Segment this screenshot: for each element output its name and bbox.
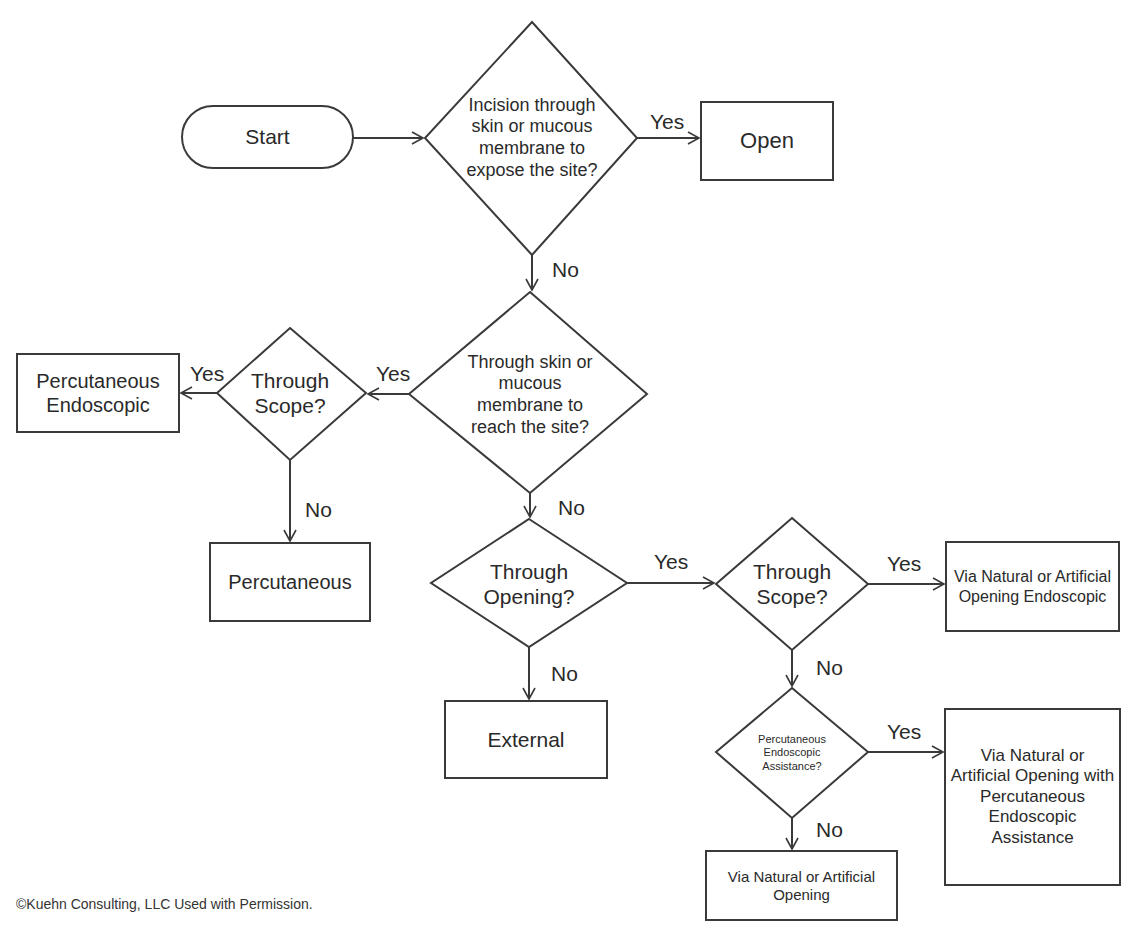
reach-no-label: No — [558, 496, 585, 520]
start-label: Start — [182, 106, 353, 168]
scope-right-no-label: No — [816, 656, 843, 680]
assist-yes-label: Yes — [887, 720, 921, 744]
reach-yes-label: Yes — [376, 362, 410, 386]
scope-left-no-label: No — [305, 498, 332, 522]
percutaneous-label: Percutaneous — [210, 543, 370, 621]
assist-no-label: No — [816, 818, 843, 842]
opening-no-label: No — [551, 662, 578, 686]
perc-endo-label: Percutaneous Endoscopic — [17, 354, 179, 432]
scope-right-yes-label: Yes — [887, 552, 921, 576]
incision-question: Incision through skin or mucous membrane… — [460, 40, 604, 236]
via-assist-label: Via Natural or Artificial Opening with P… — [950, 709, 1115, 885]
incision-no-label: No — [552, 258, 579, 282]
open-label: Open — [701, 102, 833, 180]
scope-left-yes-label: Yes — [190, 362, 224, 386]
opening-yes-label: Yes — [654, 550, 688, 574]
assist-question: Percutaneous Endoscopic Assistance? — [740, 722, 844, 784]
via-natural-label: Via Natural or Artificial Opening — [706, 851, 897, 920]
opening-question: Through Opening? — [470, 552, 588, 616]
reach-question: Through skin or mucous membrane to reach… — [465, 320, 595, 470]
incision-yes-label: Yes — [650, 110, 684, 134]
external-label: External — [445, 701, 607, 778]
copyright-note: ©Kuehn Consulting, LLC Used with Permiss… — [16, 896, 313, 912]
scope-right-question: Through Scope? — [740, 552, 844, 616]
scope-left-question: Through Scope? — [240, 360, 340, 426]
via-endo-label: Via Natural or Artificial Opening Endosc… — [946, 542, 1119, 631]
